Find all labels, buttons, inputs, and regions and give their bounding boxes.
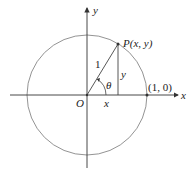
origin-label: O: [76, 97, 84, 109]
angle-arc: [97, 79, 106, 95]
radius-label: 1: [95, 58, 101, 70]
point-1-0: [146, 94, 149, 97]
origin-point: [86, 94, 88, 96]
unit-circle-diagram: y x O P(x, y) 1 θ x y (1, 0): [0, 0, 192, 176]
x-axis-label: x: [180, 89, 186, 101]
x-leg-label: x: [103, 97, 109, 109]
y-leg-label: y: [120, 68, 126, 80]
point-1-0-label: (1, 0): [148, 81, 172, 94]
point-p: [117, 43, 120, 46]
radius-line: [87, 44, 118, 95]
point-p-label: P(x, y): [122, 37, 153, 50]
y-axis-label: y: [92, 4, 98, 16]
angle-label: θ: [106, 79, 112, 91]
